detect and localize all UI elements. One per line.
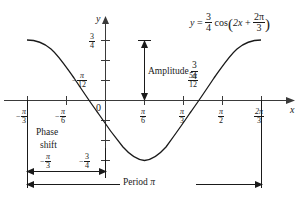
- amplitude-annotation: Amplitude 34: [148, 61, 198, 82]
- xtick-label-pi-over-2: π2: [218, 108, 224, 126]
- zero-crossing-label-neg-pi-over-12: −π12: [72, 72, 87, 90]
- equation-plus: +: [245, 17, 251, 28]
- phase-shift-value: −π3: [40, 153, 51, 171]
- equation-label: y = 34 cos(2x + 2π3): [190, 12, 270, 34]
- xtick-label-neg-pi-over-3: −π3: [16, 108, 27, 126]
- phase-shift-arrow: [26, 168, 107, 175]
- x-axis: [4, 97, 295, 104]
- equation-phase-fraction: 2π3: [253, 12, 265, 34]
- origin-label: 0: [96, 103, 101, 113]
- x-axis-label: x: [290, 105, 294, 115]
- equation-argument: 2x: [233, 17, 242, 28]
- phase-shift-text-line1: Phase: [36, 128, 58, 138]
- y-axis-label: y: [96, 14, 100, 24]
- period-symbol: π: [150, 177, 155, 187]
- ytick-label-3-over-4: 34: [89, 33, 95, 51]
- xtick-label-neg-pi-over-6: −π6: [55, 108, 66, 126]
- equation-amplitude-fraction: 34: [205, 12, 212, 34]
- phase-shift-text-line2: shift: [40, 141, 57, 151]
- xtick-label-pi-over-6: π6: [140, 108, 146, 126]
- xtick-label-pi-over-3: π3: [179, 108, 185, 126]
- period-annotation: Period π: [123, 178, 155, 188]
- amplitude-value-fraction: 34: [191, 61, 198, 82]
- equation-equals: =: [197, 17, 203, 28]
- period-text: Period: [123, 177, 148, 187]
- equation-y: y: [190, 17, 194, 28]
- xtick-label-2pi-over-3: 2π3: [254, 108, 264, 126]
- equation-cos: cos: [215, 17, 228, 28]
- equation-close-paren: ): [265, 16, 270, 32]
- amplitude-text: Amplitude: [148, 66, 189, 76]
- ytick-label-neg-3-over-4: −34: [79, 153, 90, 171]
